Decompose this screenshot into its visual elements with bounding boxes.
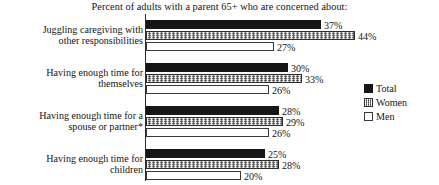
bar-total bbox=[146, 63, 288, 72]
bar-women bbox=[146, 160, 279, 169]
bar-value-label: 37% bbox=[321, 19, 343, 30]
bar-value-label: 33% bbox=[302, 73, 324, 84]
bar-chart: Percent of adults with a parent 65+ who … bbox=[0, 0, 439, 185]
category-label: Having enough time forchildren bbox=[0, 153, 143, 176]
legend-label: Women bbox=[376, 97, 407, 108]
category-label-line: Juggling caregiving with bbox=[0, 24, 143, 36]
legend-swatch-total-icon bbox=[364, 84, 373, 93]
bar-group: Having enough time forchildren25%28%20% bbox=[0, 149, 439, 182]
bar-value-label: 28% bbox=[279, 159, 301, 170]
bar-total bbox=[146, 106, 279, 115]
bar-women bbox=[146, 117, 283, 126]
category-label: Having enough time for aspouse or partne… bbox=[0, 110, 143, 133]
category-label-line: Having enough time for a bbox=[0, 110, 143, 122]
legend-item-total[interactable]: Total bbox=[364, 82, 439, 95]
bar-group: Juggling caregiving withother responsibi… bbox=[0, 20, 439, 53]
bar-row: 20% bbox=[146, 171, 439, 180]
bar-women bbox=[146, 31, 355, 40]
bar-total bbox=[146, 149, 265, 158]
bar-row: 44% bbox=[146, 31, 439, 40]
bar-value-label: 25% bbox=[265, 148, 287, 159]
bar-total bbox=[146, 20, 321, 29]
legend-item-men[interactable]: Men bbox=[364, 110, 439, 123]
bar-row: 37% bbox=[146, 20, 439, 29]
chart-title: Percent of adults with a parent 65+ who … bbox=[0, 1, 439, 12]
bar-value-label: 27% bbox=[274, 41, 296, 52]
legend-swatch-men-icon bbox=[364, 112, 373, 121]
bar-men bbox=[146, 42, 274, 51]
bar-value-label: 26% bbox=[269, 84, 291, 95]
bar-row: 28% bbox=[146, 160, 439, 169]
category-label: Having enough time forthemselves bbox=[0, 67, 143, 90]
legend-label: Total bbox=[376, 83, 397, 94]
bar-row: 26% bbox=[146, 128, 439, 137]
bar-row: 25% bbox=[146, 149, 439, 158]
category-label-line: Having enough time for bbox=[0, 67, 143, 79]
group-bars: 25%28%20% bbox=[146, 149, 439, 182]
legend-label: Men bbox=[376, 111, 395, 122]
bar-men bbox=[146, 85, 269, 94]
bar-men bbox=[146, 128, 269, 137]
category-label-line: children bbox=[0, 164, 143, 176]
bar-value-label: 29% bbox=[283, 116, 305, 127]
category-label-line: spouse or partner* bbox=[0, 121, 143, 133]
bar-men bbox=[146, 171, 241, 180]
legend-item-women[interactable]: Women bbox=[364, 96, 439, 109]
group-bars: 37%44%27% bbox=[146, 20, 439, 53]
bar-value-label: 26% bbox=[269, 127, 291, 138]
category-label-line: themselves bbox=[0, 78, 143, 90]
bar-row: 27% bbox=[146, 42, 439, 51]
category-label-line: other responsibilities bbox=[0, 35, 143, 47]
category-label-line: Having enough time for bbox=[0, 153, 143, 165]
bar-value-label: 44% bbox=[355, 30, 377, 41]
category-label: Juggling caregiving withother responsibi… bbox=[0, 24, 143, 47]
bar-value-label: 28% bbox=[279, 105, 301, 116]
bar-value-label: 30% bbox=[288, 62, 310, 73]
bar-women bbox=[146, 74, 302, 83]
bar-value-label: 20% bbox=[241, 170, 263, 181]
bar-row: 30% bbox=[146, 63, 439, 72]
legend-swatch-women-icon bbox=[364, 98, 373, 107]
chart-legend: TotalWomenMen bbox=[364, 82, 439, 124]
